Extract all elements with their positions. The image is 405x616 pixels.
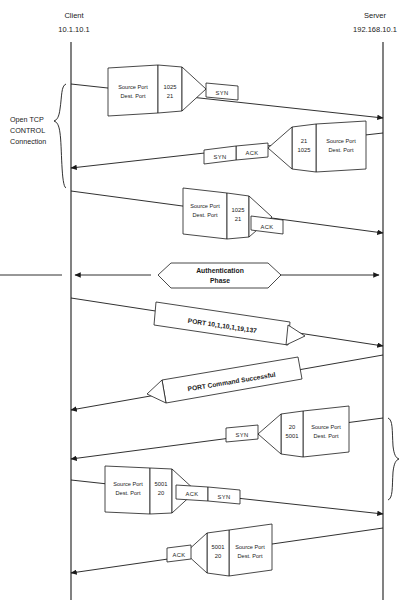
auth-phase-line2: Phase	[210, 277, 230, 284]
synack-1-dest-label: Dest. Port	[329, 147, 354, 153]
syn-1-source-port: 1025	[164, 84, 177, 90]
syn-2-dest-label: Dest. Port	[314, 433, 339, 439]
ack-2-source-port: 5001	[212, 544, 225, 550]
ack-1-source-port: 1025	[232, 207, 245, 213]
ack-2-source-label: Source Port	[235, 544, 265, 550]
ack-1-flag-ack: ACK	[261, 224, 274, 230]
message-synack-1: Source Port Dest. Port 21 1025 ACK SYN	[71, 121, 383, 172]
ack-1-source-label: Source Port	[190, 203, 220, 209]
ack-2-flag-ack: ACK	[173, 552, 186, 558]
message-port-reply: PORT Command Successful	[71, 355, 383, 410]
ack-2-dest-port: 20	[215, 553, 221, 559]
message-port-command: PORT 10,1,10,1,19,137	[71, 298, 383, 346]
message-ack-1: Source Port Dest. Port 1025 21 ACK	[71, 188, 383, 239]
data-connection-brace	[388, 418, 399, 500]
control-annotation-line2: CONTROL	[10, 126, 45, 135]
ack-2-dest-label: Dest. Port	[238, 553, 263, 559]
control-annotation-line1: Open TCP	[10, 115, 44, 124]
syn-1-source-label: Source Port	[118, 84, 148, 90]
synack-2-dest-port: 20	[158, 490, 164, 496]
message-synack-2: Source Port Dest. Port 5001 20 ACK SYN	[71, 466, 383, 514]
synack-1-flag-syn: SYN	[214, 154, 227, 160]
syn-2-flag-syn: SYN	[236, 432, 249, 438]
synack-2-flag-ack: ACK	[186, 491, 199, 497]
client-ip: 10.1.10.1	[58, 25, 89, 34]
server-ip: 192.168.10.1	[353, 25, 397, 34]
synack-2-flag-syn: SYN	[218, 494, 231, 500]
synack-2-source-label: Source Port	[113, 481, 143, 487]
message-syn-1: Source Port Dest. Port 1025 21 SYN	[71, 65, 383, 118]
synack-1-source-port: 21	[301, 138, 307, 144]
synack-2-source-port: 5001	[155, 481, 168, 487]
syn-1-flag-syn: SYN	[216, 90, 229, 96]
client-name: Client	[64, 11, 84, 20]
syn-2-source-port: 20	[289, 424, 295, 430]
ack-1-dest-port: 21	[235, 216, 241, 222]
syn-2-dest-port: 5001	[286, 433, 299, 439]
control-connection-brace	[54, 84, 66, 188]
syn-1-dest-port: 21	[167, 93, 173, 99]
server-name: Server	[364, 11, 387, 20]
auth-phase-line1: Authentication	[196, 267, 244, 274]
syn-1-dest-label: Dest. Port	[121, 93, 146, 99]
syn-2-source-label: Source Port	[311, 424, 341, 430]
message-auth-phase: Authentication Phase	[0, 263, 379, 288]
synack-1-flag-ack: ACK	[246, 150, 259, 156]
message-syn-2: Source Port Dest. Port 20 5001 SYN	[71, 406, 383, 459]
synack-2-dest-label: Dest. Port	[116, 490, 141, 496]
message-ack-2: Source Port Dest. Port 5001 20 ACK	[71, 524, 383, 576]
synack-1-dest-port: 1025	[298, 147, 311, 153]
ack-1-dest-label: Dest. Port	[193, 212, 218, 218]
synack-1-source-label: Source Port	[326, 138, 356, 144]
control-annotation-line3: Connection	[10, 137, 46, 146]
ftp-sequence-diagram: Client 10.1.10.1 Server 192.168.10.1 Ope…	[0, 0, 405, 616]
